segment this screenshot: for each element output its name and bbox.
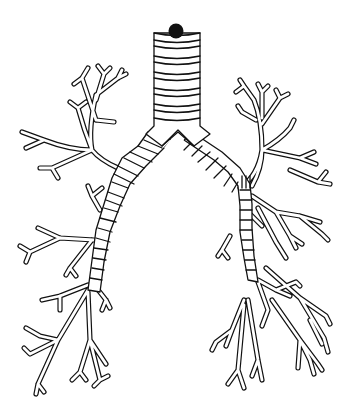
left-lung-branches: [212, 80, 330, 388]
bronchial-tree-illustration: [0, 0, 352, 407]
trachea: [146, 33, 210, 146]
tracheal-top-cap: [169, 24, 184, 39]
bronchial-tree-drawing: [0, 0, 352, 407]
left-main-bronchus: [184, 132, 258, 282]
